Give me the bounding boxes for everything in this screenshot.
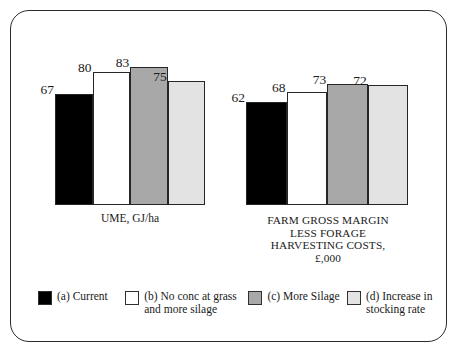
- bar-value-label: 73: [313, 73, 327, 87]
- legend-swatch-c: [248, 291, 262, 305]
- bar-value-label: 67: [41, 83, 55, 97]
- legend-swatch-b: [125, 291, 139, 305]
- bar: 75: [168, 81, 206, 206]
- bar: 73: [327, 84, 368, 205]
- group-caption-ume: UME, GJ/ha: [55, 212, 205, 225]
- legend-swatch-d: [347, 291, 361, 305]
- bar: 68: [287, 92, 328, 205]
- legend-label-d: (d) Increase in stocking rate: [366, 290, 432, 315]
- bar-value-label: 72: [353, 74, 367, 88]
- bar-rect: [246, 102, 287, 205]
- bar-rect: [93, 72, 131, 205]
- bar-rect: [368, 85, 409, 205]
- bar-rect: [55, 94, 93, 205]
- bar: 83: [130, 67, 168, 205]
- bar: 62: [246, 102, 287, 205]
- bar-rect: [168, 81, 206, 206]
- legend-item-a[interactable]: (a) Current: [38, 290, 125, 305]
- bar-chart: 67808375 UME, GJ/ha 62687372 FARM GROSS …: [0, 0, 460, 353]
- legend-item-b[interactable]: (b) No conc at grass and more silage: [125, 290, 248, 315]
- bar-value-label: 75: [153, 70, 167, 84]
- bar-value-label: 62: [232, 91, 246, 105]
- bar-value-label: 80: [78, 61, 92, 75]
- chart-legend: (a) Current (b) No conc at grass and mor…: [38, 290, 438, 315]
- legend-label-b: (b) No conc at grass and more silage: [144, 290, 237, 315]
- legend-swatch-a: [38, 291, 52, 305]
- bar: 67: [55, 94, 93, 205]
- legend-item-c[interactable]: (c) More Silage: [248, 290, 347, 305]
- legend-item-d[interactable]: (d) Increase in stocking rate: [347, 290, 438, 315]
- bar-rect: [287, 92, 328, 205]
- bar: 72: [368, 85, 409, 205]
- legend-label-a: (a) Current: [57, 290, 108, 303]
- bar-value-label: 83: [116, 56, 130, 70]
- bar-rect: [130, 67, 168, 205]
- group-caption-farm-gross-margin: FARM GROSS MARGIN LESS FORAGE HARVESTING…: [242, 214, 414, 264]
- bar-rect: [327, 84, 368, 205]
- legend-label-c: (c) More Silage: [267, 290, 339, 303]
- bar: 80: [93, 72, 131, 205]
- bar-value-label: 68: [272, 81, 286, 95]
